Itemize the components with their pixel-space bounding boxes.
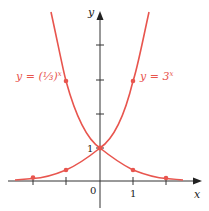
label-one-third-pow-x: y = (⅓)x xyxy=(15,70,62,83)
y-axis-label: y xyxy=(87,6,95,19)
origin-label: 0 xyxy=(90,185,96,196)
y-tick-label-1: 1 xyxy=(87,143,93,154)
curve-three-pow-x xyxy=(15,12,149,180)
exponential-graph: y x 0 1 1 y = (⅓)x y = 3x xyxy=(0,0,209,211)
y-axis-arrow-icon xyxy=(97,11,104,20)
x-axis-label: x xyxy=(194,188,201,201)
x-tick-label-1: 1 xyxy=(130,188,136,199)
x-axis-arrow-icon xyxy=(193,178,202,185)
axes xyxy=(8,18,196,208)
curve-one-third-pow-x xyxy=(51,12,183,180)
label-three-pow-x: y = 3x xyxy=(139,70,173,83)
